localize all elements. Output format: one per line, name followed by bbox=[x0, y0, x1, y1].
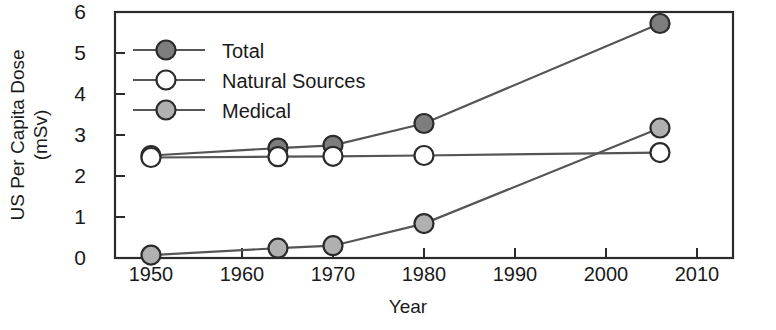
series-line-natural-sources bbox=[151, 153, 660, 158]
x-axis-ticks bbox=[151, 248, 697, 258]
legend-marker-medical bbox=[157, 101, 176, 120]
legend-item-medical: Medical bbox=[133, 100, 291, 122]
series-markers-medical bbox=[142, 119, 670, 265]
legend: Total Natural Sources Medical bbox=[133, 40, 365, 122]
legend-marker-total bbox=[157, 41, 176, 60]
plot-area: Total Natural Sources Medical bbox=[0, 0, 776, 330]
chart-figure: US Per Capita Dose (mSv) 6 5 4 3 2 1 0 1… bbox=[0, 0, 776, 330]
legend-label-medical: Medical bbox=[222, 100, 291, 122]
series-line-medical bbox=[151, 128, 660, 255]
legend-marker-natural-sources bbox=[157, 71, 176, 90]
series-markers-total bbox=[142, 14, 670, 165]
legend-label-total: Total bbox=[222, 40, 264, 62]
y-axis-ticks bbox=[115, 12, 125, 258]
legend-label-natural-sources: Natural Sources bbox=[222, 70, 365, 92]
legend-item-total: Total bbox=[133, 40, 264, 62]
legend-item-natural-sources: Natural Sources bbox=[133, 70, 365, 92]
